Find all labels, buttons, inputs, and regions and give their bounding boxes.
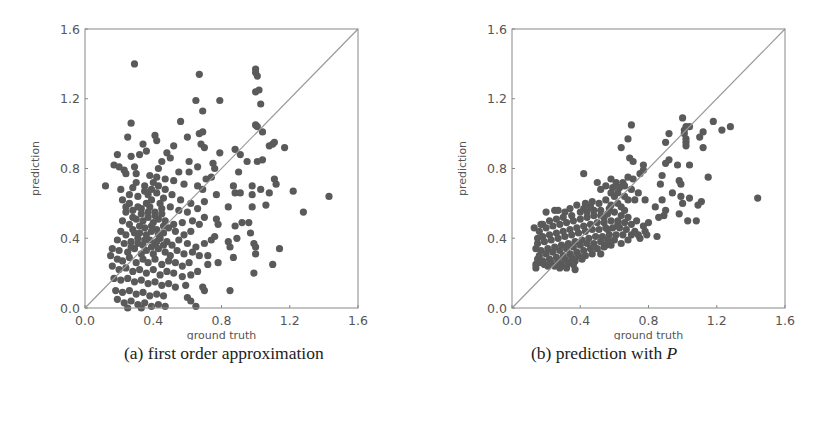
- y-tick-label: 1.2: [487, 91, 507, 106]
- data-point: [172, 284, 179, 291]
- data-point: [537, 259, 544, 266]
- data-point: [325, 193, 332, 200]
- data-point: [604, 226, 611, 233]
- data-point: [252, 250, 259, 257]
- data-point: [643, 231, 650, 238]
- data-point: [573, 202, 580, 209]
- data-point: [592, 233, 599, 240]
- y-tick-label: 0.4: [60, 231, 80, 246]
- data-point: [225, 203, 232, 210]
- data-point: [659, 172, 666, 179]
- data-point: [233, 235, 240, 242]
- caption-b: (b) prediction with P: [531, 343, 677, 364]
- data-point: [211, 233, 218, 240]
- data-point: [126, 191, 133, 198]
- data-point: [168, 191, 175, 198]
- data-point: [250, 270, 257, 277]
- data-point: [199, 107, 206, 114]
- data-point: [216, 97, 223, 104]
- data-point: [160, 292, 167, 299]
- data-point: [196, 252, 203, 259]
- x-tick-label: 0.8: [639, 313, 659, 328]
- data-point: [143, 270, 150, 277]
- data-point: [114, 151, 121, 158]
- data-point: [257, 100, 264, 107]
- data-point: [226, 243, 233, 250]
- data-point: [266, 189, 273, 196]
- data-point: [148, 303, 155, 310]
- data-point: [119, 289, 126, 296]
- data-point: [201, 198, 208, 205]
- data-point: [575, 229, 582, 236]
- data-point: [230, 254, 237, 261]
- data-point: [109, 263, 116, 270]
- data-point: [657, 181, 664, 188]
- data-point: [148, 243, 155, 250]
- data-point: [158, 282, 165, 289]
- data-point: [124, 275, 131, 282]
- y-axis-label: prediction: [456, 141, 469, 196]
- data-point: [642, 196, 649, 203]
- data-point: [186, 158, 193, 165]
- x-tick-label: 1.6: [775, 313, 795, 328]
- data-point: [249, 203, 256, 210]
- data-point: [584, 214, 591, 221]
- data-point: [179, 263, 186, 270]
- data-point: [238, 219, 245, 226]
- data-point: [151, 212, 158, 219]
- data-point: [151, 278, 158, 285]
- data-point: [172, 228, 179, 235]
- data-point: [662, 139, 669, 146]
- data-point: [594, 179, 601, 186]
- data-point: [194, 205, 201, 212]
- data-point: [621, 182, 628, 189]
- scatter-plot-a: 0.00.40.81.21.60.00.40.81.21.6ground tru…: [0, 0, 408, 340]
- data-point: [254, 73, 261, 80]
- data-point: [635, 189, 642, 196]
- data-point: [153, 137, 160, 144]
- x-axis-label: ground truth: [614, 329, 684, 340]
- data-point: [244, 158, 251, 165]
- data-point: [153, 174, 160, 181]
- data-point: [175, 236, 182, 243]
- data-point: [570, 261, 577, 268]
- data-point: [577, 216, 584, 223]
- data-point: [595, 226, 602, 233]
- data-point: [145, 259, 152, 266]
- data-point: [602, 196, 609, 203]
- data-point: [148, 186, 155, 193]
- data-point: [555, 207, 562, 214]
- data-point: [134, 193, 141, 200]
- data-point: [669, 189, 676, 196]
- data-point: [290, 188, 297, 195]
- data-point: [180, 181, 187, 188]
- data-point: [676, 210, 683, 217]
- data-point: [146, 292, 153, 299]
- data-point: [618, 144, 625, 151]
- data-point: [566, 205, 573, 212]
- data-point: [659, 196, 666, 203]
- data-point: [109, 245, 116, 252]
- data-point: [148, 222, 155, 229]
- data-point: [116, 266, 123, 273]
- data-point: [255, 86, 262, 93]
- data-point: [119, 217, 126, 224]
- data-point: [162, 303, 169, 310]
- data-point: [266, 142, 273, 149]
- data-point: [595, 200, 602, 207]
- data-point: [563, 219, 570, 226]
- y-tick-label: 0.4: [487, 231, 507, 246]
- data-point: [624, 236, 631, 243]
- data-point: [555, 235, 562, 242]
- data-point: [624, 135, 631, 142]
- data-point: [138, 210, 145, 217]
- data-point: [117, 277, 124, 284]
- caption-a: (a) first order approximation: [124, 343, 324, 364]
- data-point: [133, 170, 140, 177]
- y-tick-label: 0.8: [60, 161, 80, 176]
- data-point: [621, 207, 628, 214]
- data-point: [112, 287, 119, 294]
- data-point: [614, 221, 621, 228]
- data-point: [170, 177, 177, 184]
- data-point: [131, 163, 138, 170]
